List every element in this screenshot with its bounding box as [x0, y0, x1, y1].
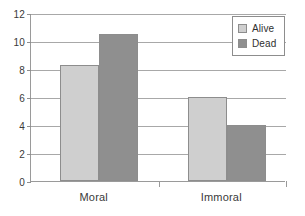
- y-axis-tick-label: 2: [19, 149, 25, 160]
- chart-legend: Alive Dead: [232, 16, 285, 56]
- y-axis-tick-label: 10: [13, 37, 25, 48]
- y-axis-tick-mark: [27, 154, 31, 155]
- gridline: [31, 14, 286, 15]
- bar-moral-alive: [60, 65, 99, 181]
- legend-item-alive: Alive: [238, 21, 280, 36]
- legend-label-alive: Alive: [252, 23, 274, 34]
- y-axis-tick-label: 8: [19, 65, 25, 76]
- y-axis-tick-mark: [27, 42, 31, 43]
- y-axis-tick-label: 4: [19, 121, 25, 132]
- legend-swatch-dead-icon: [238, 39, 247, 48]
- y-axis-tick-label: 12: [13, 9, 25, 20]
- x-axis-category-label: Moral: [79, 191, 108, 203]
- y-axis-tick-label: 6: [19, 93, 25, 104]
- y-axis-tick-mark: [27, 182, 31, 183]
- bar-immoral-dead: [227, 125, 266, 181]
- y-axis-tick-mark: [27, 98, 31, 99]
- x-axis-tick-mark: [159, 181, 160, 187]
- y-axis-tick-mark: [27, 126, 31, 127]
- y-axis-tick-mark: [27, 14, 31, 15]
- bar-immoral-alive: [188, 97, 227, 181]
- bar-moral-dead: [99, 34, 138, 181]
- y-axis-tick-mark: [27, 70, 31, 71]
- legend-label-dead: Dead: [252, 38, 276, 49]
- x-axis-tick-mark: [286, 181, 287, 187]
- x-axis-category-label: Immoral: [201, 191, 242, 203]
- legend-item-dead: Dead: [238, 36, 280, 51]
- y-axis-tick-label: 0: [19, 177, 25, 188]
- bar-chart: 121086420 MoralImmoral Alive Dead: [0, 0, 305, 216]
- legend-swatch-alive-icon: [238, 24, 247, 33]
